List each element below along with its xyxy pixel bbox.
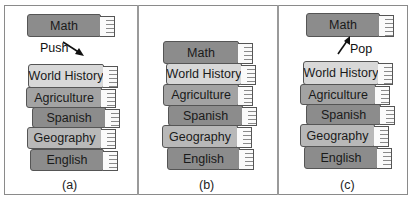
book-pages <box>100 16 115 37</box>
caption-a: (a) <box>62 178 77 192</box>
book-world-history: World History <box>166 63 256 85</box>
book-spanish: Spanish <box>168 105 257 126</box>
panel-divider-bc <box>277 5 279 195</box>
book-agriculture: Agriculture <box>26 87 116 108</box>
caption-c: (c) <box>340 178 355 192</box>
push-arrow-icon <box>60 40 90 60</box>
book-spanish: Spanish <box>32 107 120 128</box>
book-geography: Geography <box>27 127 116 149</box>
book-spanish: Spanish <box>306 104 395 125</box>
book-english: English <box>304 146 392 169</box>
book-english: English <box>167 147 254 170</box>
book-agriculture: Agriculture <box>300 84 390 105</box>
book-geography: Geography <box>162 125 252 148</box>
book-world-history: World History <box>28 64 118 88</box>
book-math: Math <box>163 41 253 64</box>
book-world-history: World History <box>303 61 393 85</box>
book-agriculture: Agriculture <box>163 84 253 106</box>
book-geography: Geography <box>300 124 389 147</box>
pop-label: Pop <box>350 42 372 56</box>
panel-divider-ab <box>137 5 139 195</box>
book-english: English <box>30 149 118 171</box>
caption-b: (b) <box>199 178 214 192</box>
book-math: Math <box>27 14 115 37</box>
